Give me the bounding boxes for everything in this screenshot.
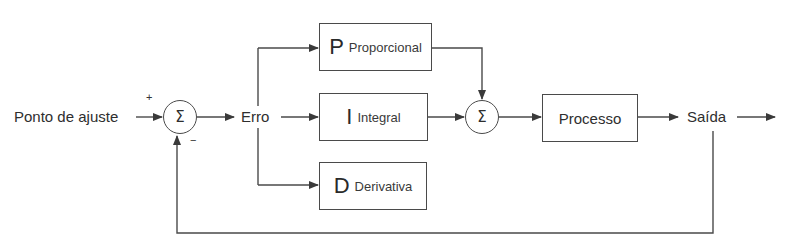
error-label: Erro xyxy=(240,109,270,124)
integral-block: I Integral xyxy=(319,93,428,141)
output-label: Saída xyxy=(687,109,726,124)
derivative-letter: D xyxy=(334,175,350,197)
plus-sign: + xyxy=(146,92,152,103)
integral-label: Integral xyxy=(357,111,400,124)
setpoint-label: Ponto de ajuste xyxy=(14,109,118,124)
integral-letter: I xyxy=(346,106,352,128)
sigma-icon: Σ xyxy=(477,108,486,126)
summing-junction-1: Σ xyxy=(163,100,197,134)
proportional-block: P Proporcional xyxy=(319,23,432,71)
process-label: Processo xyxy=(559,110,622,127)
derivative-block: D Derivativa xyxy=(319,162,427,210)
proportional-letter: P xyxy=(329,36,344,58)
proportional-label: Proporcional xyxy=(349,41,422,54)
sigma-icon: Σ xyxy=(175,108,184,126)
minus-sign: − xyxy=(190,135,196,146)
summing-junction-2: Σ xyxy=(465,100,499,134)
process-block: Processo xyxy=(542,94,638,142)
derivative-label: Derivativa xyxy=(355,180,413,193)
